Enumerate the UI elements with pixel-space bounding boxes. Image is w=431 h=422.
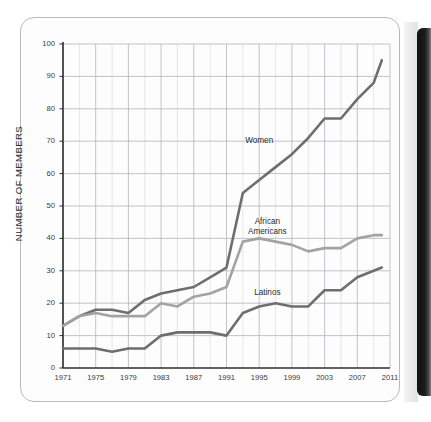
y-tick-label: 40 [33, 233, 55, 242]
y-tick-label: 90 [33, 71, 55, 80]
y-tick-label: 60 [33, 169, 55, 178]
series-line-women [63, 60, 382, 326]
y-tick-label: 50 [33, 201, 55, 210]
y-tick-label: 100 [33, 39, 55, 48]
x-tick-label: 1995 [242, 373, 276, 382]
x-tick-label: 1971 [46, 373, 80, 382]
x-tick-label: 1999 [275, 373, 309, 382]
x-tick-label: 2003 [308, 373, 342, 382]
x-tick-label: 1975 [79, 373, 113, 382]
series-annotation-label: Americans [237, 227, 297, 237]
x-tick-label: 1991 [210, 373, 244, 382]
x-tick-label: 1979 [111, 373, 145, 382]
line-chart: NUMBER OF MEMBERS 0102030405060708090100… [0, 0, 431, 422]
x-tick-label: 1983 [144, 373, 178, 382]
y-tick-label: 70 [33, 136, 55, 145]
x-tick-label: 1987 [177, 373, 211, 382]
y-tick-label: 0 [33, 363, 55, 372]
y-tick-label: 80 [33, 104, 55, 113]
y-tick-label: 10 [33, 331, 55, 340]
y-tick-label: 20 [33, 298, 55, 307]
y-tick-label: 30 [33, 266, 55, 275]
x-tick-label: 2007 [340, 373, 374, 382]
series-annotation-label: African [237, 217, 297, 227]
series-annotation-label: Women [229, 136, 289, 146]
series-line-african-americans [63, 235, 382, 326]
chart-canvas [0, 0, 431, 422]
series-annotation-label: Latinos [237, 288, 297, 298]
x-tick-label: 2011 [373, 373, 407, 382]
